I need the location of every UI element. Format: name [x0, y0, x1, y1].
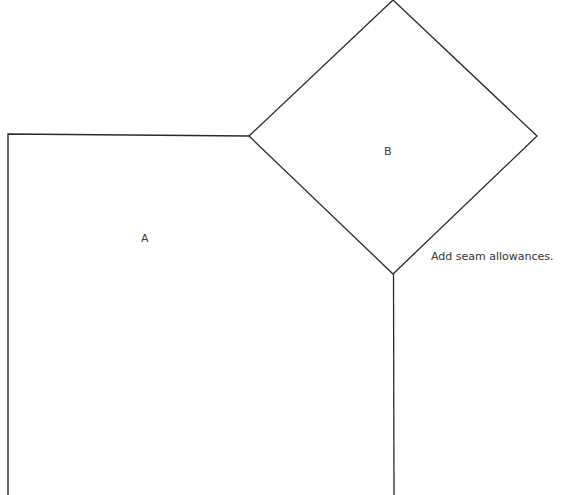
piece-b-label: B — [384, 146, 392, 157]
piece-a-right-edge — [394, 274, 395, 495]
piece-a-label: A — [141, 233, 149, 244]
piece-a-outline — [8, 134, 249, 495]
seam-allowance-note: Add seam allowances. — [431, 251, 554, 262]
quilt-template-diagram — [0, 0, 574, 495]
piece-b-diamond — [249, 0, 537, 274]
